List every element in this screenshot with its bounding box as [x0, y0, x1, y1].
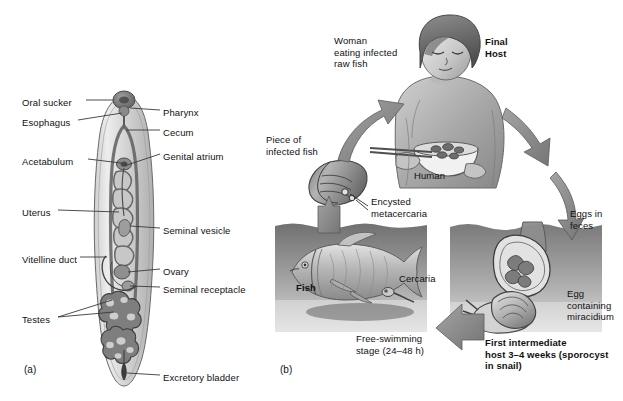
label-fish: Fish: [296, 282, 316, 294]
label-first-intermediate-host: First intermediate host 3–4 weeks (sporo…: [485, 337, 608, 372]
label-esophagus: Esophagus: [22, 117, 70, 129]
label-cecum: Cecum: [163, 127, 194, 139]
label-uterus: Uterus: [22, 207, 51, 219]
label-acetabulum: Acetabulum: [22, 156, 73, 168]
label-seminal-receptacle: Seminal receptacle: [163, 284, 246, 296]
panel-caption-b: (b): [280, 364, 292, 375]
label-pharynx: Pharynx: [163, 107, 199, 119]
life-cycle-illustration: [275, 15, 602, 350]
label-excretory-bladder: Excretory bladder: [163, 372, 239, 384]
label-oral-sucker: Oral sucker: [22, 97, 72, 109]
figure-liver-fluke: Oral sucker Esophagus Acetabulum Uterus …: [0, 0, 623, 401]
label-testes: Testes: [22, 314, 50, 326]
label-encysted-metacercaria: Encysted metacercaria: [371, 196, 427, 219]
label-genital-atrium: Genital atrium: [163, 151, 224, 163]
label-ovary: Ovary: [163, 266, 189, 278]
label-woman-eating: Woman eating infected raw fish: [334, 35, 397, 70]
label-cercaria: Cercaria: [399, 273, 436, 285]
label-piece-of-infected-fish: Piece of infected fish: [266, 134, 318, 157]
fluke-illustration: [58, 91, 160, 386]
label-human: Human: [414, 170, 445, 182]
label-vitelline-duct: Vitelline duct: [22, 254, 77, 266]
label-seminal-vesicle: Seminal vesicle: [163, 225, 231, 237]
label-final-host: Final Host: [485, 36, 508, 59]
label-egg-containing-miracidium: Egg containing miracidium: [567, 288, 614, 323]
panel-caption-a: (a): [24, 364, 36, 375]
label-eggs-in-feces: Eggs in feces: [570, 208, 602, 231]
label-free-swimming-stage: Free-swimming stage (24–48 h): [356, 333, 424, 356]
